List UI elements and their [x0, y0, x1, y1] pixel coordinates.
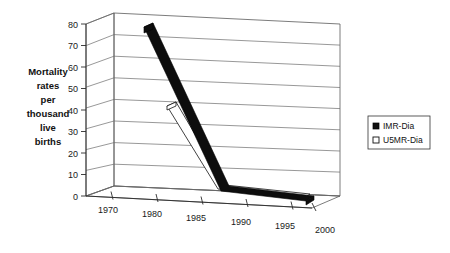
- x-tick-label-1970: 1970: [98, 205, 118, 215]
- hollow-square-icon: [373, 137, 379, 143]
- chart-legend: IMR-Dia U5MR-Dia: [368, 116, 430, 149]
- y-axis-title-line-5: live: [40, 122, 56, 133]
- y-tick-label-60: 60: [68, 63, 78, 73]
- y-tick-label-20: 20: [68, 149, 78, 159]
- x-tick-label-1995: 1995: [275, 221, 295, 231]
- x-tick-label-1980: 1980: [142, 209, 162, 219]
- y-tick-label-80: 80: [68, 20, 78, 30]
- y-axis-title-line-3: per: [41, 94, 56, 105]
- y-axis-title-line-1: Mortality: [28, 66, 68, 77]
- mortality-rates-3d-line-chart: 80 70 60 50 40 30 20 10 0 Mortality rate…: [0, 0, 450, 253]
- y-axis-title-line-6: births: [35, 136, 61, 147]
- legend-item-label-u5mr-dia: U5MR-Dia: [383, 135, 423, 145]
- y-tick-label-70: 70: [68, 41, 78, 51]
- legend-item-label-imr-dia: IMR-Dia: [383, 121, 414, 131]
- y-axis-title-line-4: thousand: [27, 108, 70, 119]
- y-axis-title-line-2: rates: [37, 80, 60, 91]
- chart-container: 80 70 60 50 40 30 20 10 0 Mortality rate…: [0, 0, 450, 253]
- y-tick-label-0: 0: [73, 192, 78, 202]
- filled-square-icon: [373, 123, 379, 129]
- y-tick-label-50: 50: [68, 84, 78, 94]
- y-tick-label-10: 10: [68, 170, 78, 180]
- y-tick-label-30: 30: [68, 127, 78, 137]
- x-tick-label-2000: 2000: [315, 225, 335, 235]
- y-tick-label-40: 40: [68, 106, 78, 116]
- x-tick-label-1985: 1985: [186, 213, 206, 223]
- x-tick-label-1990: 1990: [231, 217, 251, 227]
